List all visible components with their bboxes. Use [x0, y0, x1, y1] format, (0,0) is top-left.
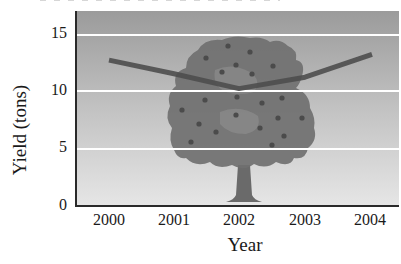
- x-tick-2004: 2004: [345, 211, 395, 229]
- x-tick-2001: 2001: [149, 211, 199, 229]
- x-tick-2003: 2003: [280, 211, 330, 229]
- y-tick-15: 15: [43, 24, 67, 42]
- x-tick-2002: 2002: [214, 211, 264, 229]
- y-tick-0: 0: [43, 196, 67, 214]
- y-tick-5: 5: [43, 138, 67, 156]
- x-tick-2000: 2000: [84, 211, 134, 229]
- y-tick-10: 10: [43, 81, 67, 99]
- y-axis-label: Yield (tons): [2, 60, 38, 200]
- x-axis-label: Year: [190, 234, 300, 256]
